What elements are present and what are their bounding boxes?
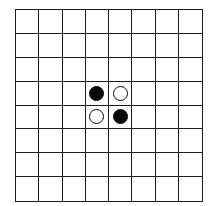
- board-cell[interactable]: [179, 82, 202, 106]
- board-cell[interactable]: [132, 34, 155, 58]
- board-cell[interactable]: [63, 10, 86, 34]
- board-cell[interactable]: [156, 10, 179, 34]
- board-cell[interactable]: [109, 153, 132, 177]
- board-cell[interactable]: [39, 177, 62, 201]
- board-cell[interactable]: [132, 82, 155, 106]
- board-cell[interactable]: [109, 177, 132, 201]
- board-cell[interactable]: [16, 177, 39, 201]
- board-cell[interactable]: [39, 58, 62, 82]
- board-cell[interactable]: [132, 10, 155, 34]
- board-cell[interactable]: [179, 106, 202, 130]
- board-cell[interactable]: [16, 10, 39, 34]
- board-cell[interactable]: [63, 58, 86, 82]
- board-cell[interactable]: [179, 10, 202, 34]
- board-cell[interactable]: [109, 58, 132, 82]
- board-cell[interactable]: [132, 129, 155, 153]
- board-cell[interactable]: [179, 153, 202, 177]
- board-cell[interactable]: [86, 129, 109, 153]
- board-cell[interactable]: [86, 153, 109, 177]
- board-cell[interactable]: [63, 129, 86, 153]
- board-cell[interactable]: [132, 58, 155, 82]
- black-piece: [113, 109, 128, 124]
- board-cell[interactable]: [109, 34, 132, 58]
- board-cell[interactable]: [63, 34, 86, 58]
- board-cell[interactable]: [109, 129, 132, 153]
- board-cell[interactable]: [86, 106, 109, 130]
- board-cell[interactable]: [156, 153, 179, 177]
- board-cell[interactable]: [39, 153, 62, 177]
- board-cell[interactable]: [156, 129, 179, 153]
- white-piece: [89, 109, 104, 124]
- board-cell[interactable]: [39, 129, 62, 153]
- board-cell[interactable]: [132, 106, 155, 130]
- board-cell[interactable]: [63, 82, 86, 106]
- board-cell[interactable]: [86, 34, 109, 58]
- board-cell[interactable]: [16, 129, 39, 153]
- board-cell[interactable]: [109, 106, 132, 130]
- board-cell[interactable]: [156, 177, 179, 201]
- othello-board: [15, 9, 203, 202]
- board-cell[interactable]: [132, 177, 155, 201]
- board-cell[interactable]: [179, 177, 202, 201]
- board-cell[interactable]: [16, 58, 39, 82]
- board-cell[interactable]: [63, 106, 86, 130]
- board-cell[interactable]: [109, 82, 132, 106]
- black-piece: [89, 86, 104, 101]
- board-cell[interactable]: [39, 10, 62, 34]
- board-cell[interactable]: [179, 129, 202, 153]
- board-cell[interactable]: [86, 58, 109, 82]
- board-cell[interactable]: [156, 58, 179, 82]
- board-cell[interactable]: [109, 10, 132, 34]
- board-cell[interactable]: [86, 177, 109, 201]
- board-cell[interactable]: [16, 106, 39, 130]
- board-cell[interactable]: [39, 82, 62, 106]
- board-cell[interactable]: [16, 34, 39, 58]
- board-cell[interactable]: [156, 106, 179, 130]
- board-cell[interactable]: [16, 153, 39, 177]
- board-cell[interactable]: [63, 153, 86, 177]
- board-cell[interactable]: [63, 177, 86, 201]
- white-piece: [113, 86, 128, 101]
- board-cell[interactable]: [39, 106, 62, 130]
- board-cell[interactable]: [86, 82, 109, 106]
- board-cell[interactable]: [39, 34, 62, 58]
- board-cell[interactable]: [86, 10, 109, 34]
- board-cell[interactable]: [179, 58, 202, 82]
- board-cell[interactable]: [179, 34, 202, 58]
- board-cell[interactable]: [16, 82, 39, 106]
- board-cell[interactable]: [156, 82, 179, 106]
- board-cell[interactable]: [156, 34, 179, 58]
- board-cell[interactable]: [132, 153, 155, 177]
